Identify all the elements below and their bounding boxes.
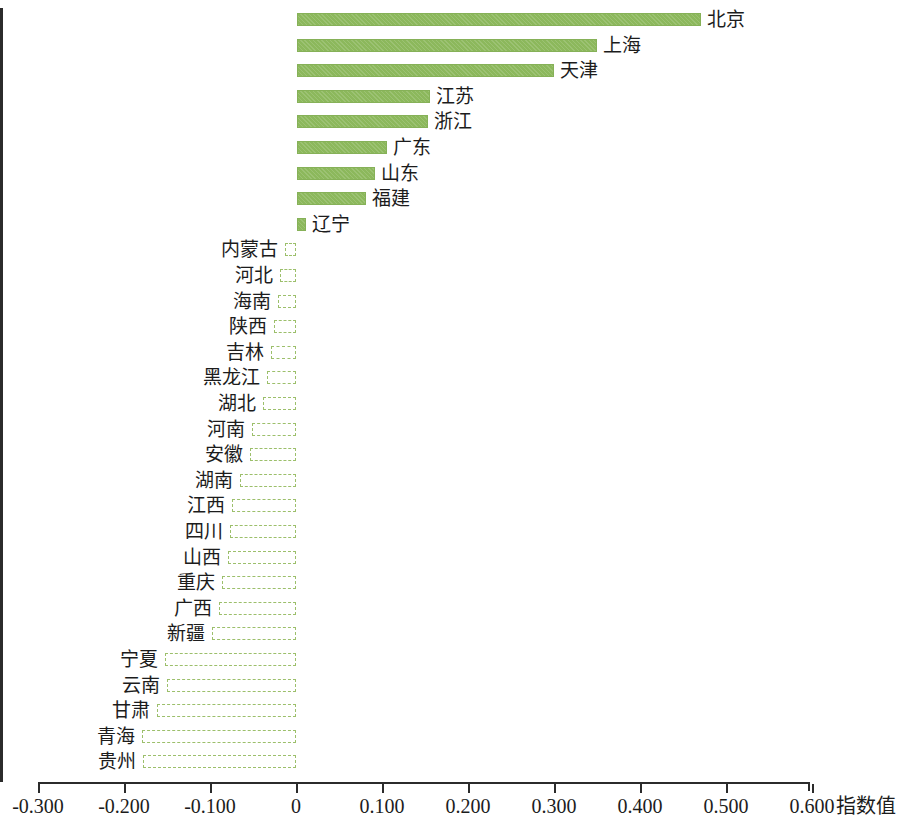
bar-positive	[297, 13, 701, 26]
bar-negative	[230, 525, 296, 538]
bar-category-label: 陕西	[229, 315, 267, 339]
bar-row: 上海	[0, 34, 913, 58]
bar-negative	[280, 269, 296, 282]
bar-positive	[297, 141, 387, 154]
bar-row: 广东	[0, 136, 913, 160]
bar-positive	[297, 192, 366, 205]
bar-negative	[250, 448, 296, 461]
bar-row: 云南	[0, 674, 913, 698]
bar-positive	[297, 90, 430, 103]
bar-row: 河北	[0, 264, 913, 288]
bar-row: 山东	[0, 162, 913, 186]
x-axis-tick	[726, 784, 728, 793]
bar-row: 陕西	[0, 315, 913, 339]
bar-negative	[263, 397, 296, 410]
bar-positive	[297, 39, 597, 52]
bar-category-label: 云南	[122, 674, 160, 698]
x-axis-tick-label: 0.600	[790, 794, 835, 818]
bar-negative	[212, 627, 296, 640]
x-axis-tick	[210, 784, 212, 793]
x-axis-cap-right	[808, 782, 810, 791]
bar-row: 海南	[0, 290, 913, 314]
bar-negative	[228, 551, 296, 564]
bar-category-label: 山西	[183, 546, 221, 570]
bar-positive	[297, 218, 306, 231]
bar-category-label: 甘肃	[112, 699, 150, 723]
bar-row: 内蒙古	[0, 238, 913, 262]
x-axis-tick	[296, 784, 298, 793]
bar-category-label: 广东	[393, 136, 431, 160]
x-axis-tick	[640, 784, 642, 793]
bar-row: 湖南	[0, 469, 913, 493]
x-axis-tick-label: 0.200	[446, 794, 491, 818]
bar-category-label: 河北	[235, 264, 273, 288]
horizontal-bar-chart: 北京上海天津江苏浙江广东山东福建辽宁内蒙古河北海南陕西吉林黑龙江湖北河南安徽湖南…	[0, 0, 913, 819]
bar-row: 甘肃	[0, 699, 913, 723]
bar-negative	[143, 755, 296, 768]
bar-category-label: 广西	[174, 597, 212, 621]
bar-row: 福建	[0, 187, 913, 211]
x-axis-tick	[468, 784, 470, 793]
x-axis-tick	[124, 784, 126, 793]
bar-category-label: 河南	[207, 418, 245, 442]
x-axis-line	[38, 782, 810, 784]
x-axis-tick	[382, 784, 384, 793]
bar-category-label: 新疆	[167, 622, 205, 646]
bar-negative	[285, 243, 296, 256]
bar-row: 江苏	[0, 85, 913, 109]
x-axis-tick	[38, 784, 40, 793]
bar-row: 重庆	[0, 571, 913, 595]
bar-category-label: 吉林	[226, 341, 264, 365]
bar-negative	[278, 295, 296, 308]
x-axis-tick-label: 0.300	[532, 794, 577, 818]
bar-negative	[165, 653, 296, 666]
bar-category-label: 四川	[185, 520, 223, 544]
bar-category-label: 江西	[187, 494, 225, 518]
bar-category-label: 湖北	[218, 392, 256, 416]
bar-row: 吉林	[0, 341, 913, 365]
bar-negative	[240, 474, 296, 487]
bar-row: 广西	[0, 597, 913, 621]
bar-category-label: 浙江	[434, 110, 472, 134]
bar-row: 黑龙江	[0, 366, 913, 390]
bar-positive	[297, 167, 375, 180]
bar-row: 江西	[0, 494, 913, 518]
bar-negative	[274, 320, 296, 333]
bar-row: 天津	[0, 59, 913, 83]
x-axis-tick-label: 0.400	[618, 794, 663, 818]
bar-negative	[219, 602, 296, 615]
x-axis-tick-label: -0.100	[184, 794, 236, 818]
x-axis-tick-label: 0	[291, 794, 301, 818]
bar-row: 山西	[0, 546, 913, 570]
bar-row: 四川	[0, 520, 913, 544]
bar-negative	[142, 730, 296, 743]
bar-category-label: 福建	[372, 187, 410, 211]
bar-negative	[271, 346, 296, 359]
bar-category-label: 辽宁	[312, 213, 350, 237]
x-axis-tick-label: 0.500	[704, 794, 749, 818]
bar-row: 新疆	[0, 622, 913, 646]
bar-row: 河南	[0, 418, 913, 442]
bar-category-label: 贵州	[98, 750, 136, 774]
bar-negative	[167, 679, 296, 692]
bar-category-label: 天津	[560, 59, 598, 83]
bar-row: 贵州	[0, 750, 913, 774]
bar-negative	[232, 499, 296, 512]
bar-row: 安徽	[0, 443, 913, 467]
bar-category-label: 上海	[603, 34, 641, 58]
bar-row: 湖北	[0, 392, 913, 416]
bar-category-label: 山东	[381, 162, 419, 186]
bar-category-label: 宁夏	[120, 648, 158, 672]
bar-negative	[222, 576, 296, 589]
x-axis-tick-label: 0.100	[360, 794, 405, 818]
x-axis: 指数值 -0.300-0.200-0.10000.1000.2000.3000.…	[0, 782, 913, 819]
bar-category-label: 黑龙江	[203, 366, 260, 390]
x-axis-tick-label: -0.300	[12, 794, 64, 818]
bar-row: 辽宁	[0, 213, 913, 237]
bar-category-label: 湖南	[195, 469, 233, 493]
bar-row: 北京	[0, 8, 913, 32]
bar-positive	[297, 64, 554, 77]
bar-negative	[267, 371, 296, 384]
bar-row: 浙江	[0, 110, 913, 134]
plot-area: 北京上海天津江苏浙江广东山东福建辽宁内蒙古河北海南陕西吉林黑龙江湖北河南安徽湖南…	[0, 0, 913, 782]
